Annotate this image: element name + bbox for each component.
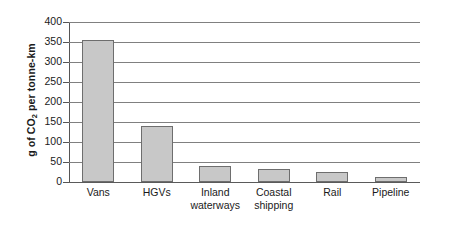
y-axis-tick-label: 100 bbox=[2, 136, 62, 146]
y-axis-tick-label: 250 bbox=[2, 76, 62, 86]
gridline bbox=[69, 22, 420, 23]
plot-area bbox=[69, 22, 420, 182]
y-axis-tick-mark bbox=[63, 22, 69, 23]
y-axis-tick-mark bbox=[63, 142, 69, 143]
gridline bbox=[69, 82, 420, 83]
bar bbox=[375, 177, 407, 182]
y-axis-tick-mark bbox=[63, 182, 69, 183]
y-axis-tick-mark bbox=[63, 62, 69, 63]
y-axis-tick-mark bbox=[63, 122, 69, 123]
y-axis-tick-mark bbox=[63, 162, 69, 163]
y-axis-tick-mark bbox=[63, 82, 69, 83]
gridline bbox=[69, 162, 420, 163]
y-axis-tick-label: 300 bbox=[2, 56, 62, 66]
y-axis-tick-label: 150 bbox=[2, 116, 62, 126]
y-axis-tick-label: 0 bbox=[2, 176, 62, 186]
gridline bbox=[69, 122, 420, 123]
category-label: Pipeline bbox=[353, 186, 429, 199]
gridline bbox=[69, 62, 420, 63]
x-axis-category-labels: VansHGVsInlandwaterwaysCoastalshippingRa… bbox=[69, 186, 420, 226]
gridline bbox=[69, 142, 420, 143]
bar bbox=[82, 40, 114, 182]
y-axis-tick-mark bbox=[63, 102, 69, 103]
bar bbox=[141, 126, 173, 182]
y-axis-tick-labels: 050100150200250300350400 bbox=[0, 0, 62, 226]
gridline bbox=[69, 42, 420, 43]
y-axis-tick-label: 50 bbox=[2, 156, 62, 166]
y-axis-tick-label: 200 bbox=[2, 96, 62, 106]
bar bbox=[316, 172, 348, 182]
y-axis-tick-mark bbox=[63, 42, 69, 43]
gridline bbox=[69, 102, 420, 103]
category-label-line: shipping bbox=[236, 199, 312, 212]
category-label-line: Pipeline bbox=[353, 186, 429, 199]
bar bbox=[258, 169, 290, 182]
y-axis-tick-label: 400 bbox=[2, 16, 62, 26]
bar-chart-figure: g of CO2 per tonne-km 050100150200250300… bbox=[0, 0, 455, 226]
y-axis-tick-label: 350 bbox=[2, 36, 62, 46]
axis-baseline bbox=[69, 182, 420, 183]
bar bbox=[199, 166, 231, 182]
